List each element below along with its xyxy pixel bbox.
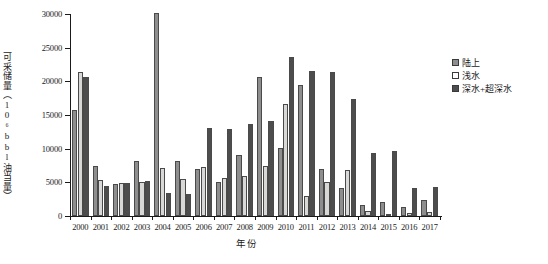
y-tick-label: 0 bbox=[0, 211, 62, 221]
bar-2017-series-2 bbox=[433, 187, 438, 216]
y-tick-label: 10000 bbox=[0, 144, 62, 154]
bar-2008-series-2 bbox=[248, 124, 253, 216]
bar-2004-series-2 bbox=[166, 193, 171, 216]
legend-swatch-icon bbox=[452, 85, 459, 92]
bar-2012-series-0 bbox=[319, 169, 324, 216]
x-tick-mark bbox=[70, 216, 71, 220]
y-tick-label: 20000 bbox=[0, 76, 62, 86]
bar-2013-series-0 bbox=[339, 188, 344, 216]
bar-2000-series-1 bbox=[78, 72, 83, 216]
y-tick-label: 30000 bbox=[0, 9, 62, 19]
bar-2013-series-2 bbox=[351, 99, 356, 216]
legend-label: 陆上 bbox=[462, 56, 480, 69]
bar-2008-series-0 bbox=[236, 155, 241, 216]
bar-2016-series-0 bbox=[401, 207, 406, 216]
x-tick-mark bbox=[255, 216, 256, 220]
bar-2006-series-2 bbox=[207, 128, 212, 216]
bar-2003-series-2 bbox=[145, 181, 150, 216]
x-tick-mark bbox=[173, 216, 174, 220]
x-tick-mark bbox=[111, 216, 112, 220]
legend-item-2: 深水+超深水 bbox=[452, 82, 512, 95]
x-tick-mark bbox=[276, 216, 277, 220]
bar-2011-series-0 bbox=[298, 85, 303, 216]
chart-legend: 陆上浅水深水+超深水 bbox=[452, 56, 512, 95]
bar-2011-series-2 bbox=[309, 71, 314, 216]
x-tick-mark bbox=[296, 216, 297, 220]
legend-item-1: 浅水 bbox=[452, 69, 512, 82]
plot-area bbox=[70, 14, 440, 216]
bar-2001-series-2 bbox=[104, 186, 109, 216]
bar-2008-series-1 bbox=[242, 176, 247, 216]
bar-2004-series-1 bbox=[160, 168, 165, 216]
x-tick-mark bbox=[419, 216, 420, 220]
bar-2002-series-2 bbox=[124, 183, 129, 216]
bar-2005-series-2 bbox=[186, 194, 191, 216]
bar-2009-series-2 bbox=[268, 121, 273, 216]
legend-swatch-icon bbox=[452, 59, 459, 66]
bar-2001-series-0 bbox=[93, 166, 98, 217]
bar-2000-series-2 bbox=[83, 77, 88, 216]
bar-2005-series-1 bbox=[180, 179, 185, 216]
bar-2007-series-0 bbox=[216, 182, 221, 216]
bar-2000-series-0 bbox=[72, 110, 77, 216]
legend-item-0: 陆上 bbox=[452, 56, 512, 69]
bar-2014-series-1 bbox=[365, 211, 370, 216]
bar-2013-series-1 bbox=[345, 170, 350, 216]
x-tick-label-2017: 2017 bbox=[412, 222, 448, 232]
bar-2010-series-1 bbox=[283, 104, 288, 216]
bar-2017-series-1 bbox=[427, 212, 432, 216]
x-tick-mark bbox=[193, 216, 194, 220]
legend-label: 深水+超深水 bbox=[462, 82, 512, 95]
x-tick-mark bbox=[132, 216, 133, 220]
x-tick-mark bbox=[337, 216, 338, 220]
bar-2007-series-1 bbox=[222, 178, 227, 216]
bar-2001-series-1 bbox=[98, 180, 103, 216]
legend-label: 浅水 bbox=[462, 69, 480, 82]
bar-chart: 可采储量（10⁶bbl油当量） 050001000015000200002500… bbox=[0, 0, 548, 264]
bar-2002-series-0 bbox=[113, 184, 118, 216]
x-tick-mark bbox=[91, 216, 92, 220]
bar-2016-series-2 bbox=[412, 188, 417, 216]
bar-2010-series-0 bbox=[278, 148, 283, 216]
bar-2005-series-0 bbox=[175, 161, 180, 216]
bar-2009-series-0 bbox=[257, 77, 262, 216]
x-axis-title: 年份 bbox=[236, 236, 258, 250]
bar-2015-series-0 bbox=[380, 202, 385, 216]
legend-swatch-icon bbox=[452, 72, 459, 79]
bar-2011-series-1 bbox=[304, 196, 309, 216]
x-tick-mark bbox=[378, 216, 379, 220]
x-tick-mark bbox=[214, 216, 215, 220]
bar-2009-series-1 bbox=[263, 166, 268, 217]
bar-2006-series-1 bbox=[201, 167, 206, 216]
bar-2015-series-1 bbox=[386, 214, 391, 216]
y-tick-label: 25000 bbox=[0, 43, 62, 53]
bar-2003-series-1 bbox=[139, 182, 144, 216]
y-tick-label: 15000 bbox=[0, 110, 62, 120]
x-tick-mark bbox=[152, 216, 153, 220]
bar-2016-series-1 bbox=[407, 213, 412, 216]
x-tick-mark bbox=[440, 216, 441, 220]
y-tick-label: 5000 bbox=[0, 177, 62, 187]
x-tick-mark bbox=[234, 216, 235, 220]
bar-2014-series-2 bbox=[371, 153, 376, 216]
bar-2006-series-0 bbox=[195, 169, 200, 216]
bar-2012-series-1 bbox=[324, 182, 329, 216]
x-tick-mark bbox=[358, 216, 359, 220]
x-tick-mark bbox=[317, 216, 318, 220]
bar-2010-series-2 bbox=[289, 57, 294, 216]
bar-2014-series-0 bbox=[360, 205, 365, 216]
bar-2017-series-0 bbox=[421, 200, 426, 216]
x-tick-mark bbox=[399, 216, 400, 220]
bar-2003-series-0 bbox=[134, 161, 139, 216]
bar-2015-series-2 bbox=[392, 151, 397, 216]
bar-2012-series-2 bbox=[330, 72, 335, 216]
x-axis-line bbox=[70, 216, 442, 217]
bar-2004-series-0 bbox=[154, 13, 159, 216]
bar-2002-series-1 bbox=[119, 183, 124, 216]
bar-2007-series-2 bbox=[227, 129, 232, 216]
